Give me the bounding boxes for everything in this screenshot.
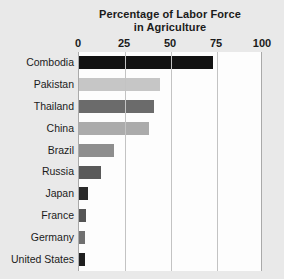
bar-russia [79,166,101,179]
bar-row [79,118,261,140]
bar-row [79,52,261,74]
category-label-japan: Japan [0,187,74,199]
category-label-france: France [0,209,74,221]
x-tick-label-25: 25 [118,37,130,49]
category-label-united-states: United States [0,253,74,265]
bar-row [79,140,261,162]
bar-pakistan [79,78,160,91]
bar-chart: Percentage of Labor Force in Agriculture… [0,0,284,279]
category-label-russia: Russia [0,165,74,177]
bar-france [79,209,86,222]
gridline-25 [125,52,126,271]
y-axis-category-labels: CombodiaPakistanThailandChinaBrazilRussi… [0,52,74,271]
bar-row [79,227,261,249]
x-tick-label-75: 75 [210,37,222,49]
bar-row [79,249,261,271]
x-axis-tick-labels: 0255075100 [0,37,284,51]
x-tick-label-50: 50 [164,37,176,49]
bar-thailand [79,100,154,113]
category-label-combodia: Combodia [0,56,74,68]
bar-united-states [79,253,85,266]
chart-title: Percentage of Labor Force in Agriculture [78,8,262,34]
category-label-germany: Germany [0,231,74,243]
category-label-thailand: Thailand [0,100,74,112]
chart-title-line-1: Percentage of Labor Force [78,8,262,21]
bar-combodia [79,56,213,69]
bar-brazil [79,144,114,157]
category-label-china: China [0,122,74,134]
gridline-75 [217,52,218,271]
bar-row [79,74,261,96]
bar-germany [79,231,85,244]
plot-area [78,52,262,271]
x-tick-label-100: 100 [253,37,271,49]
bar-row [79,183,261,205]
bars-layer [79,52,261,271]
chart-title-line-2: in Agriculture [78,21,262,34]
x-tick-label-0: 0 [75,37,81,49]
bar-row [79,96,261,118]
bar-china [79,122,149,135]
bar-row [79,205,261,227]
gridline-50 [171,52,172,271]
bar-row [79,162,261,184]
bar-japan [79,187,88,200]
category-label-pakistan: Pakistan [0,78,74,90]
category-label-brazil: Brazil [0,144,74,156]
